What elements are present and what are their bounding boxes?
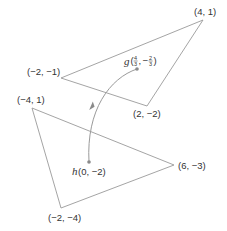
mapping-arc xyxy=(89,69,137,162)
vertex-label-neg2-neg1: (−2, −1) xyxy=(27,66,60,77)
diagram-canvas: (4, 1) (−2, −1) (2, −2) g ( 4 3 , − 2 3 … xyxy=(0,0,227,231)
g-x-numerator: 4 xyxy=(134,55,137,61)
vertex-label-2-neg2: (2, −2) xyxy=(133,108,161,119)
g-y-numerator: 2 xyxy=(149,55,152,61)
vertex-label-neg4-1: (−4, 1) xyxy=(17,94,45,105)
centroid-g-label: g ( 4 3 , − 2 3 ) xyxy=(124,55,157,68)
lower-triangle xyxy=(32,108,174,208)
centroid-h-point xyxy=(87,160,91,164)
vertex-label-4-1: (4, 1) xyxy=(194,6,216,17)
g-y-sign: − xyxy=(143,55,149,66)
vertex-label-neg2-neg4: (−2, −4) xyxy=(48,212,81,223)
centroid-h-coords: (0, −2) xyxy=(78,166,106,177)
centroid-g-name: g xyxy=(124,55,130,67)
centroid-g-point xyxy=(135,67,139,71)
g-comma: , xyxy=(139,55,142,66)
vertex-label-6-neg3: (6, −3) xyxy=(178,160,206,171)
centroid-h-label: h (0, −2) xyxy=(72,165,106,177)
g-y-denominator: 3 xyxy=(149,61,152,67)
g-close-paren: ) xyxy=(154,55,157,66)
arrowhead-icon xyxy=(89,102,94,111)
g-x-denominator: 3 xyxy=(134,61,137,67)
